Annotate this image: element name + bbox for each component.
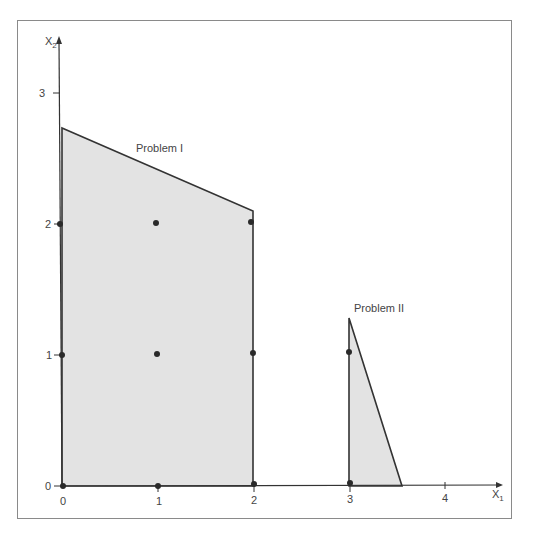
x-tick-0: 0 — [60, 495, 66, 507]
x-tick-1: 1 — [156, 495, 162, 507]
integer-programming-diagram: 0 1 2 3 0 1 2 3 4 X2 X1 Problem I Proble… — [0, 0, 535, 534]
x-tick-2: 2 — [251, 494, 257, 506]
point-0-2 — [57, 221, 63, 227]
label-problem-1: Problem I — [136, 142, 183, 154]
point-1-0 — [155, 483, 161, 489]
region-problem-2 — [349, 318, 402, 486]
point-0-0 — [60, 483, 66, 489]
region-problem-1 — [62, 128, 253, 486]
y-axis-arrow-icon — [56, 36, 62, 44]
y-tick-2: 2 — [45, 218, 51, 230]
point-2-2 — [248, 219, 254, 225]
x-tick-3: 3 — [347, 493, 353, 505]
x-axis-label: X1 — [492, 488, 504, 503]
y-tick-3: 3 — [39, 87, 45, 99]
point-1-1 — [154, 351, 160, 357]
point-3-1 — [346, 349, 352, 355]
point-2-1 — [250, 350, 256, 356]
label-problem-2: Problem II — [354, 302, 404, 314]
y-tick-1: 1 — [46, 349, 52, 361]
point-0-1 — [59, 352, 65, 358]
point-3-0 — [347, 480, 353, 486]
x-tick-4: 4 — [442, 492, 448, 504]
y-tick-0: 0 — [45, 480, 51, 492]
point-2-0 — [251, 481, 257, 487]
point-1-2 — [153, 220, 159, 226]
y-axis-label: X2 — [45, 35, 57, 50]
